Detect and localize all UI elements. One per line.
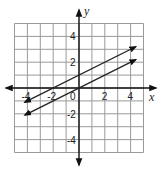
y-tick-label: -4 [67, 135, 76, 146]
x-tick-label: -2 [47, 91, 56, 102]
x-tick-label: 2 [102, 91, 108, 102]
x-tick-label: 4 [128, 91, 134, 102]
x-tick-label: -4 [21, 91, 30, 102]
x-tick-label: 0 [70, 91, 76, 102]
y-tick-label: -2 [67, 109, 76, 120]
line-series-0 [25, 47, 136, 102]
y-axis-label: y [83, 4, 90, 18]
y-tick-label: 2 [70, 57, 76, 68]
lines [25, 47, 136, 115]
coordinate-plane: -4-2024-4-224 x y [0, 0, 168, 169]
y-tick-label: 4 [70, 31, 76, 42]
x-axis-label: x [148, 90, 155, 104]
